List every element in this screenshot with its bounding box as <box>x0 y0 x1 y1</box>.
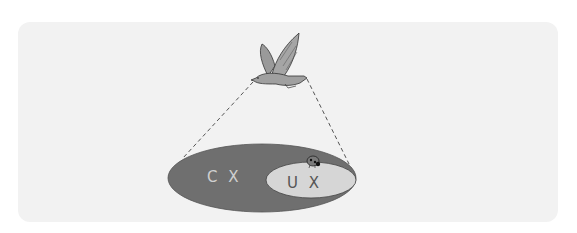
bird-icon <box>251 33 307 88</box>
diagram-canvas <box>0 0 577 233</box>
inner-set-label: U X <box>287 174 322 192</box>
outer-set-label: C X <box>207 168 242 186</box>
